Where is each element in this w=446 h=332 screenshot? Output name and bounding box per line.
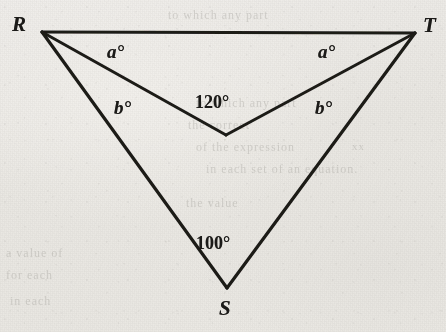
angle-label-a-left: a° <box>107 41 124 63</box>
vertex-label-S: S <box>219 296 231 321</box>
vertex-label-R: R <box>12 12 26 37</box>
angle-label-a-right: a° <box>318 41 335 63</box>
angle-label-b-left: b° <box>114 97 131 119</box>
segment-RP <box>42 32 226 135</box>
angle-label-120: 120° <box>195 92 229 113</box>
angle-label-100: 100° <box>196 233 230 254</box>
vertex-label-T: T <box>423 13 436 38</box>
segment-RT <box>42 32 415 33</box>
segment-TS <box>227 33 415 288</box>
angle-label-b-right: b° <box>315 97 332 119</box>
diagram-canvas <box>0 0 446 332</box>
geometry-figure: to which any part to which any part the … <box>0 0 446 332</box>
